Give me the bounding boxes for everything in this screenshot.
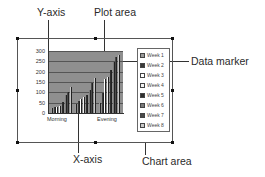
y-tick-label: 250 bbox=[25, 58, 45, 64]
y-tick-label: 50 bbox=[25, 100, 45, 106]
legend-label: Week 8 bbox=[147, 122, 164, 128]
plot-area-callout: Plot area bbox=[94, 6, 136, 18]
data-marker-bar[interactable] bbox=[86, 95, 88, 113]
data-marker-bar[interactable] bbox=[110, 70, 112, 113]
legend-item[interactable]: Week 3 bbox=[140, 71, 164, 79]
resize-handle-bottom-right[interactable] bbox=[171, 141, 174, 144]
legend-swatch-icon bbox=[140, 93, 145, 98]
chart-area-callout-line bbox=[145, 143, 146, 155]
data-marker-bar[interactable] bbox=[107, 77, 109, 113]
legend-label: Week 1 bbox=[147, 52, 164, 58]
data-marker-bar[interactable] bbox=[91, 83, 93, 113]
resize-handle-top-left[interactable] bbox=[16, 37, 19, 40]
data-marker-bar[interactable] bbox=[62, 102, 64, 113]
legend-label: Week 7 bbox=[147, 112, 164, 118]
legend-item[interactable]: Week 7 bbox=[140, 111, 164, 119]
legend-label: Week 6 bbox=[147, 102, 164, 108]
legend-swatch-icon bbox=[140, 123, 145, 128]
resize-handle-bottom-center[interactable] bbox=[94, 141, 97, 144]
resize-handle-bottom-left[interactable] bbox=[16, 141, 19, 144]
x-category-label-morning: Morning bbox=[47, 116, 67, 122]
y-tick-label: 300 bbox=[25, 48, 45, 54]
data-marker-bar[interactable] bbox=[78, 101, 80, 113]
x-category-label-evening: Evening bbox=[97, 116, 117, 122]
data-marker-bar[interactable] bbox=[94, 78, 96, 113]
data-marker-bar[interactable] bbox=[75, 104, 77, 113]
data-marker-bar[interactable] bbox=[83, 97, 85, 113]
y-axis[interactable] bbox=[48, 51, 49, 114]
legend-item[interactable]: Week 8 bbox=[140, 121, 164, 129]
legend-swatch-icon bbox=[140, 103, 145, 108]
legend-swatch-icon bbox=[140, 53, 145, 58]
legend-item[interactable]: Week 4 bbox=[140, 81, 164, 89]
legend-swatch-icon bbox=[140, 73, 145, 78]
data-marker-bar[interactable] bbox=[89, 90, 91, 113]
y-tick-label: 0 bbox=[25, 110, 45, 116]
x-axis-callout: X-axis bbox=[73, 153, 102, 165]
legend-swatch-icon bbox=[140, 83, 145, 88]
legend-swatch-icon bbox=[140, 113, 145, 118]
y-axis-callout: Y-axis bbox=[37, 6, 65, 18]
legend-item[interactable]: Week 6 bbox=[140, 101, 164, 109]
data-marker-bar[interactable] bbox=[118, 55, 120, 113]
resize-handle-middle-right[interactable] bbox=[171, 89, 174, 92]
data-marker-bar[interactable] bbox=[113, 62, 115, 113]
chart-area-callout: Chart area bbox=[142, 155, 192, 167]
data-marker-bar[interactable] bbox=[104, 79, 106, 113]
x-axis[interactable] bbox=[48, 113, 124, 114]
y-tick-label: 100 bbox=[25, 89, 45, 95]
legend-label: Week 5 bbox=[147, 92, 164, 98]
data-marker-callout: Data marker bbox=[191, 55, 249, 67]
legend-swatch-icon bbox=[140, 63, 145, 68]
data-marker-bar[interactable] bbox=[80, 99, 82, 113]
legend-item[interactable]: Week 1 bbox=[140, 51, 164, 59]
gridline bbox=[49, 51, 123, 52]
legend-label: Week 3 bbox=[147, 72, 164, 78]
y-tick-label: 200 bbox=[25, 69, 45, 75]
resize-handle-top-center[interactable] bbox=[94, 37, 97, 40]
data-marker-bar[interactable] bbox=[67, 92, 69, 113]
legend-label: Week 4 bbox=[147, 82, 164, 88]
legend-label: Week 2 bbox=[147, 62, 164, 68]
resize-handle-top-right[interactable] bbox=[171, 37, 174, 40]
data-marker-bar[interactable] bbox=[65, 95, 67, 113]
data-marker-bar[interactable] bbox=[99, 103, 101, 113]
resize-handle-middle-left[interactable] bbox=[16, 89, 19, 92]
plot-area[interactable] bbox=[49, 51, 123, 113]
data-marker-bar[interactable] bbox=[59, 106, 61, 113]
data-marker-bar[interactable] bbox=[70, 87, 72, 113]
data-marker-bar[interactable] bbox=[115, 57, 117, 113]
y-tick-label: 150 bbox=[25, 79, 45, 85]
chart-legend[interactable]: Week 1Week 2Week 3Week 4Week 5Week 6Week… bbox=[137, 48, 170, 132]
legend-item[interactable]: Week 2 bbox=[140, 61, 164, 69]
legend-item[interactable]: Week 5 bbox=[140, 91, 164, 99]
data-marker-bar[interactable] bbox=[102, 93, 104, 113]
